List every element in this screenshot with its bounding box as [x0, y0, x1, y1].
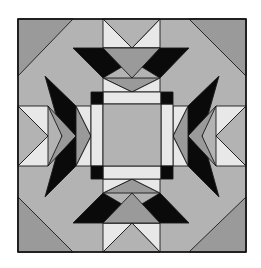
frame-right-strip	[161, 104, 173, 166]
corner-square-bottom-right	[161, 166, 173, 179]
quilt-pieces	[18, 19, 246, 252]
corner-square-top-left	[91, 92, 103, 104]
center-square	[103, 104, 161, 166]
frame-left-strip	[91, 104, 103, 166]
corner-square-top-right	[161, 92, 173, 104]
frame-top-strip	[103, 92, 161, 104]
quilt-block	[0, 0, 261, 268]
frame-bottom-strip	[103, 166, 161, 179]
corner-square-bottom-left	[91, 166, 103, 179]
